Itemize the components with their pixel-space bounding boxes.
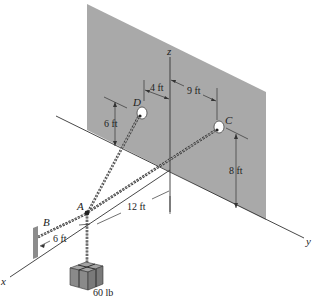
point-c-label: C [225, 114, 233, 126]
dim-8ft-height-label: 8 ft [229, 165, 243, 176]
point-d-label: D [132, 96, 141, 108]
z-axis-label: z [166, 45, 172, 57]
load-label: 60 lb [93, 287, 113, 297]
dim-12ft: 12 ft [97, 191, 170, 224]
anchor-c [214, 121, 224, 133]
x-axis [10, 170, 170, 277]
dim-12ft-label: 12 ft [127, 201, 146, 212]
support-b-plate [33, 226, 38, 259]
dim-9ft-label: 9 ft [187, 85, 201, 96]
crate-60lb [70, 262, 103, 290]
anchor-d [137, 107, 147, 119]
dim-6ft-height-label: 6 ft [104, 118, 118, 129]
point-a-ring [85, 211, 90, 216]
dim-4ft-label: 4 ft [150, 82, 164, 93]
point-b-label: B [43, 216, 50, 228]
dim-6ft-ba-label: 6 ft [53, 233, 67, 244]
point-a-label: A [76, 200, 84, 212]
x-axis-label: x [0, 275, 6, 287]
statics-diagram: z y x 4 ft 9 ft 6 ft 8 ft [0, 0, 313, 297]
wall-plane [87, 4, 266, 220]
y-axis-label: y [305, 235, 311, 247]
